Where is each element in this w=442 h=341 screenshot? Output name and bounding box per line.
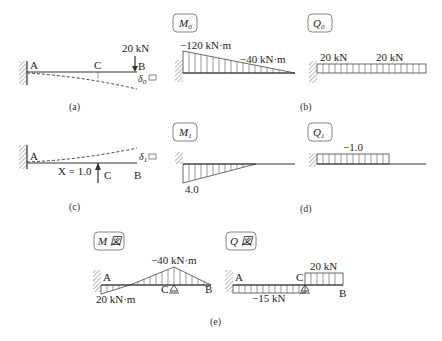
M-diagram-title: M 図	[97, 235, 123, 247]
Q-label-AC: −15 kN	[252, 292, 285, 304]
M0-label-C: −40 kN·m	[240, 53, 286, 65]
node-label-A: A	[30, 150, 38, 162]
node-label-A: A	[103, 271, 111, 283]
Q1-label: −1.0	[343, 141, 363, 153]
panel-d-moment-M1: M1 4.0	[173, 123, 295, 195]
fixed-support-icon	[93, 270, 101, 292]
node-label-A: A	[30, 59, 38, 71]
panel-d-shear-Q1: Q1 −1.0 (d)	[300, 123, 426, 215]
caption-d: (d)	[300, 203, 312, 215]
node-label-B: B	[339, 287, 346, 299]
deflected-shape	[27, 148, 137, 162]
node-label-B: B	[134, 169, 141, 181]
M1-label-A: 4.0	[185, 183, 199, 195]
node-label-C: C	[296, 271, 303, 283]
caption-b: (b)	[300, 101, 312, 113]
panel-e-shear-diagram: Q 図 A C B 20 kN −15 kN (e)	[210, 232, 346, 328]
fixed-support-icon	[309, 153, 317, 167]
panel-c-unit-load: A C B X = 1.0 δ1 (c)	[19, 145, 156, 213]
unit-load-label: X = 1.0	[58, 165, 92, 177]
fixed-support-icon	[309, 61, 317, 83]
deflection-delta1: δ1	[139, 151, 147, 164]
panel-a-cantilever-load: A C B 20 kN δ0 (a)	[19, 42, 156, 113]
fixed-support-icon	[19, 61, 27, 85]
fixed-support-icon	[175, 60, 183, 82]
node-label-B: B	[138, 60, 145, 72]
structural-analysis-diagram: A C B 20 kN δ0 (a) M0 −120 kN·m −40 kN·m	[0, 0, 442, 341]
M-label-C: −40 kN·m	[151, 254, 197, 266]
roller-support-icon	[170, 285, 178, 291]
fixed-support-icon	[225, 270, 233, 292]
Q0-label-1: 20 kN	[320, 51, 347, 63]
Q-diagram-title: Q 図	[230, 235, 254, 247]
fixed-support-icon	[175, 152, 183, 164]
load-label: 20 kN	[122, 42, 149, 54]
caption-c: (c)	[69, 201, 80, 213]
deflected-shape	[27, 73, 137, 89]
Q-label-CB: 20 kN	[310, 260, 337, 272]
M-label-A: 20 kN·m	[96, 293, 136, 305]
node-label-C: C	[161, 283, 168, 295]
node-label-B: B	[205, 283, 212, 295]
caption-e: (e)	[210, 316, 221, 328]
M0-label-A: −120 kN·m	[180, 39, 232, 51]
fixed-support-icon	[19, 145, 27, 169]
node-label-A: A	[235, 271, 243, 283]
panel-e-moment-diagram: M 図 A C B −40 kN·m 20 kN·m	[93, 232, 212, 305]
panel-b-shear-Q0: Q0 20 kN 20 kN (b)	[300, 14, 426, 113]
panel-b-moment-M0: M0 −120 kN·m −40 kN·m	[173, 14, 295, 82]
deflection-delta0: δ0	[138, 73, 147, 86]
node-label-C: C	[94, 59, 101, 71]
node-label-C: C	[104, 169, 111, 181]
caption-a: (a)	[69, 101, 80, 113]
Q0-label-2: 20 kN	[376, 51, 403, 63]
